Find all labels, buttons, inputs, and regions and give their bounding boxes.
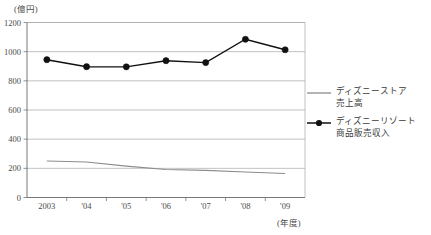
y-tick-label: 1000 xyxy=(4,47,21,57)
x-tick-label: '06 xyxy=(161,201,171,211)
legend-label-line2: 商品販売収入 xyxy=(336,128,416,140)
y-tick-label: 0 xyxy=(17,193,21,203)
x-tick-label: 2003 xyxy=(38,201,55,211)
legend-label-disney-resort: ディズニーリゾート 商品販売収入 xyxy=(336,116,416,139)
y-tick-labels-group: 020040060080010001200 xyxy=(4,18,21,203)
x-tick-label: '05 xyxy=(121,201,131,211)
data-point-marker xyxy=(44,57,50,63)
legend-label-disney-store: ディズニーストア 売上高 xyxy=(336,86,407,109)
x-axis-unit-label: (年度) xyxy=(277,216,301,228)
chart-legend: ディズニーストア 売上高 ディズニーリゾート 商品販売収入 xyxy=(306,86,431,146)
legend-item-disney-resort: ディズニーリゾート 商品販売収入 xyxy=(306,116,431,139)
x-tick-label: '08 xyxy=(240,201,250,211)
legend-line-circle-icon xyxy=(306,117,332,129)
y-tick-label: 800 xyxy=(8,76,21,86)
y-tick-label: 400 xyxy=(8,134,21,144)
y-tick-label: 1200 xyxy=(4,18,21,28)
x-tick-label: '04 xyxy=(82,201,93,211)
data-point-marker xyxy=(163,58,169,64)
series-line-disney-store xyxy=(47,161,285,173)
x-tick-label: '09 xyxy=(280,201,290,211)
data-point-marker xyxy=(83,64,89,70)
legend-label-line1: ディズニーストア xyxy=(336,86,407,98)
data-point-marker xyxy=(203,60,209,66)
x-axis-group xyxy=(27,23,305,202)
legend-label-line1: ディズニーリゾート xyxy=(336,116,416,128)
chart-figure: (億円) 020040060080010001200 2003'04'05'06… xyxy=(0,0,431,235)
y-tick-label: 200 xyxy=(8,163,21,173)
y-tickmarks-group xyxy=(24,23,28,198)
data-series-group xyxy=(44,36,288,173)
y-tick-label: 600 xyxy=(8,105,21,115)
legend-line-icon xyxy=(306,87,332,99)
data-point-marker xyxy=(123,64,129,70)
data-point-marker xyxy=(282,47,288,53)
legend-label-line2: 売上高 xyxy=(336,98,407,110)
legend-item-disney-store: ディズニーストア 売上高 xyxy=(306,86,431,109)
x-tick-labels-group: 2003'04'05'06'07'08'09 xyxy=(38,201,290,211)
x-tick-label: '07 xyxy=(201,201,211,211)
data-point-marker xyxy=(242,36,248,42)
